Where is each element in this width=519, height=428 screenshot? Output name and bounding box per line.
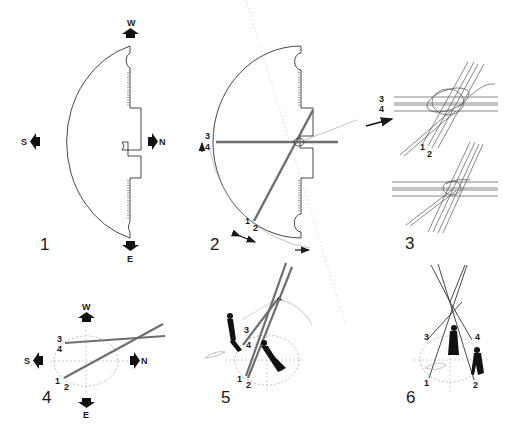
pole-label-1: 1 (245, 216, 250, 226)
panel-number-4: 4 (42, 388, 51, 407)
pole-label-3: 3 (244, 325, 249, 335)
panel-number-1: 1 (40, 235, 49, 254)
swing-arc (210, 150, 310, 248)
poles (243, 263, 292, 378)
panel-number-6: 6 (406, 388, 415, 407)
panel-1: W S N E 1 (21, 18, 166, 264)
pole-label-3: 3 (379, 94, 384, 104)
panel-number-5: 5 (221, 388, 230, 407)
tipi-diagram: W S N E 1 3 (0, 0, 519, 428)
pole-label-4: 4 (379, 104, 384, 114)
pole-label-1: 1 (237, 374, 242, 384)
panel-6: 3 4 1 2 6 (406, 264, 488, 407)
pole-label-2: 2 (246, 380, 251, 390)
pole-label-2: 2 (427, 149, 432, 159)
pole-diagonal (254, 110, 313, 221)
direction-label-s: S (24, 356, 30, 366)
pole-label-4: 4 (475, 332, 480, 342)
panel-number-3: 3 (405, 234, 414, 253)
panel-number-2: 2 (210, 235, 219, 254)
direction-label-n: N (141, 356, 148, 366)
person-lifting-pole (261, 340, 286, 372)
panel-3: 3 4 1 2 3 (366, 62, 498, 253)
panel-2: 3 4 1 2 2 (202, 46, 357, 254)
knot-detail-lower (392, 142, 498, 233)
poles (427, 264, 474, 380)
direction-label-e: E (127, 254, 133, 264)
compass-arrow-west: W (122, 18, 139, 38)
pole-label-3: 3 (57, 334, 62, 344)
compass-arrow-south: S (24, 352, 43, 369)
direction-label-w: W (82, 302, 91, 312)
pole-label-2: 2 (64, 382, 69, 392)
compass-arrow-north: N (130, 352, 148, 369)
person-holding-pole (448, 325, 459, 355)
direction-label-w: W (127, 18, 136, 28)
poles (64, 324, 165, 378)
compass-arrow-south: S (21, 133, 40, 150)
compass-arrow-west: W (78, 302, 95, 322)
pole-label-1: 1 (55, 376, 60, 386)
pole-label-2: 2 (473, 380, 478, 390)
pole-label-4: 4 (57, 344, 62, 354)
direction-label-s: S (21, 137, 27, 147)
compass-arrow-east: E (78, 398, 95, 420)
direction-label-n: N (159, 137, 166, 147)
measure-arrow (240, 236, 255, 242)
pole-label-1: 1 (424, 378, 429, 388)
pole-label-4: 4 (246, 340, 251, 350)
pole-label-3: 3 (205, 131, 210, 141)
direction-label-e: E (83, 410, 89, 420)
knot-detail-upper (394, 62, 498, 156)
tipi-cover-outline (67, 46, 141, 238)
coiled-rope (425, 363, 446, 369)
pole-label-2: 2 (253, 223, 258, 233)
guide-line (246, 0, 345, 323)
coiled-rope (205, 352, 225, 358)
person-pulling-rope (227, 313, 242, 352)
detail-arrow (366, 119, 392, 126)
pole-label-3: 3 (424, 332, 429, 342)
panel-4: W S N E 3 4 1 2 4 (24, 302, 165, 420)
pole-label-4: 4 (205, 142, 210, 152)
person-walking-pole (471, 347, 484, 375)
pole-label-1: 1 (420, 142, 425, 152)
raise-arc (282, 300, 312, 325)
panel-5: 3 4 1 2 5 (205, 0, 345, 407)
compass-arrow-east: E (122, 241, 139, 264)
compass-arrow-north: N (148, 133, 166, 150)
